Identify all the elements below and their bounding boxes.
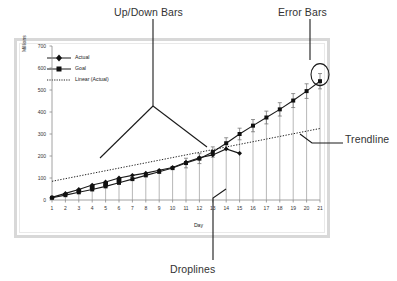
- y-tick-label: 600: [30, 65, 46, 71]
- x-tick-label: 21: [314, 205, 326, 211]
- x-tick-label: 11: [180, 205, 192, 211]
- x-tick-label: 18: [274, 205, 286, 211]
- x-tick-label: 5: [100, 205, 112, 211]
- y-tick-label: 200: [30, 153, 46, 159]
- x-tick-label: 14: [220, 205, 232, 211]
- x-axis-ticks: [52, 200, 320, 203]
- leader-up-down-bars-right: [153, 106, 207, 147]
- y-tick-label: 700: [30, 43, 46, 49]
- x-tick-label: 6: [113, 205, 125, 211]
- x-tick-label: 13: [207, 205, 219, 211]
- x-tick-label: 8: [140, 205, 152, 211]
- x-tick-label: 1: [46, 205, 58, 211]
- y-tick-label: 500: [30, 87, 46, 93]
- y-tick-label: 0: [30, 197, 46, 203]
- x-tick-label: 10: [167, 205, 179, 211]
- chart-plot-overlay: [0, 0, 397, 281]
- y-tick-label: 400: [30, 109, 46, 115]
- x-tick-label: 16: [247, 205, 259, 211]
- annotation-leader-lines: [100, 19, 343, 260]
- x-tick-label: 19: [287, 205, 299, 211]
- x-tick-label: 15: [234, 205, 246, 211]
- x-tick-label: 17: [260, 205, 272, 211]
- x-tick-label: 3: [73, 205, 85, 211]
- droplines-group: [52, 81, 320, 200]
- x-tick-label: 12: [193, 205, 205, 211]
- leader-up-down-bars-left: [100, 106, 153, 158]
- x-tick-label: 7: [126, 205, 138, 211]
- x-tick-label: 4: [86, 205, 98, 211]
- y-tick-label: 100: [30, 175, 46, 181]
- y-tick-label: 300: [30, 131, 46, 137]
- x-tick-label: 20: [301, 205, 313, 211]
- x-tick-label: 9: [153, 205, 165, 211]
- x-tick-label: 2: [59, 205, 71, 211]
- up-down-bars-group: [50, 178, 122, 199]
- screenshot-canvas: Up/Down Bars Error Bars Trendline Dropli…: [0, 0, 397, 281]
